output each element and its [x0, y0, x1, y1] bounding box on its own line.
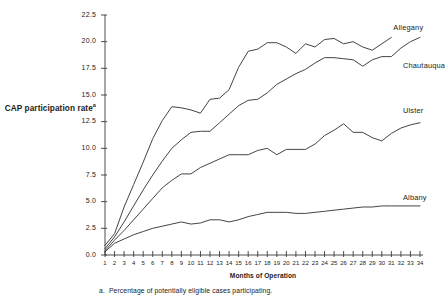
- x-axis-tick-label: 34: [413, 260, 427, 266]
- y-axis-tick-label: 12.5: [66, 117, 96, 124]
- series-label-chautauqua: Chautauqua: [403, 61, 445, 70]
- x-axis-title: Months of Operation: [105, 272, 421, 279]
- y-axis-tick-label: 2.5: [66, 224, 96, 231]
- series-line-chautauqua: [105, 37, 420, 248]
- series-line-albany: [105, 206, 420, 252]
- y-axis-tick-label: 22.5: [66, 11, 96, 18]
- y-axis-tick-label: 0.0: [66, 251, 96, 258]
- y-axis-tick-label: 5.0: [66, 197, 96, 204]
- y-axis-tick-label: 15.0: [66, 91, 96, 98]
- y-axis-tick-label: 7.5: [66, 171, 96, 178]
- y-axis-tick-label: 17.5: [66, 64, 96, 71]
- series-label-albany: Albany: [403, 193, 427, 202]
- series-label-ulster: Ulster: [403, 106, 424, 115]
- series-label-allegany: Allegany: [393, 23, 423, 32]
- y-axis-tick-label: 10.0: [66, 144, 96, 151]
- footnote-text: Percentage of potentially eligible cases…: [109, 287, 272, 294]
- footnote-marker: a.: [99, 287, 105, 294]
- series-line-allegany: [105, 37, 391, 245]
- y-axis-tick-label: 20.0: [66, 37, 96, 44]
- series-line-ulster: [105, 123, 420, 251]
- chart-series-lines: [105, 37, 420, 251]
- chart-footnote: a.Percentage of potentially eligible cas…: [99, 287, 272, 294]
- chart-axes: [101, 15, 423, 257]
